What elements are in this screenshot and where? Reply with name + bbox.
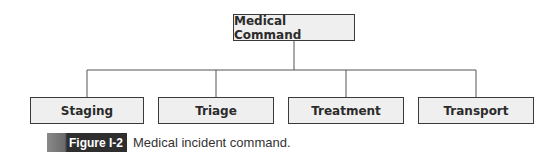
node-label: Medical Command (234, 14, 354, 42)
node-transport: Transport (418, 97, 534, 124)
node-medical-command: Medical Command (233, 14, 355, 41)
node-triage: Triage (158, 97, 274, 124)
caption-text: Medical incident command. (133, 135, 291, 150)
node-label: Transport (443, 104, 508, 118)
node-staging: Staging (30, 97, 144, 124)
node-label: Triage (195, 104, 237, 118)
node-treatment: Treatment (288, 97, 404, 124)
figure-label: Figure I-2 (47, 133, 127, 152)
figure-caption: Figure I-2 Medical incident command. (47, 133, 291, 152)
node-label: Staging (61, 104, 113, 118)
node-label: Treatment (311, 104, 381, 118)
